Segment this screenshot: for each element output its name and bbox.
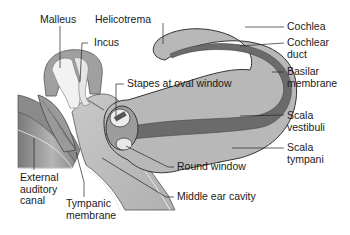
label-helicotrema: Helicotrema	[95, 14, 151, 26]
label-stapes-oval-window: Stapes at oval window	[127, 78, 231, 90]
label-round-window: Round window	[177, 161, 246, 173]
label-incus: Incus	[94, 37, 119, 49]
label-malleus: Malleus	[40, 14, 76, 26]
leader-tympanic-membrane	[76, 152, 84, 197]
label-cochlea: Cochlea	[287, 21, 326, 33]
label-cochlear-duct: Cochlear duct	[287, 37, 329, 60]
label-basilar-membrane: Basilar membrane	[287, 66, 337, 89]
label-scala-tympani: Scala tympani	[287, 142, 324, 165]
label-scala-vestibuli: Scala vestibuli	[287, 110, 325, 133]
label-tympanic-membrane: Tympanic membrane	[66, 198, 116, 221]
cochlea-shape	[104, 29, 297, 173]
label-external-auditory-canal: External auditory canal	[20, 172, 59, 207]
label-middle-ear-cavity: Middle ear cavity	[177, 191, 256, 203]
